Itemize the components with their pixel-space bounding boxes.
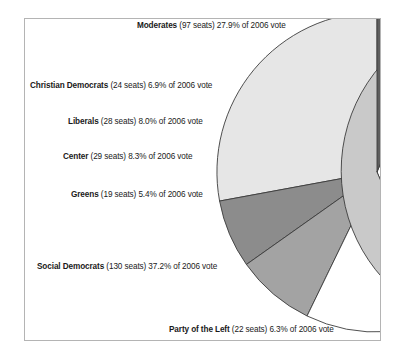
pie-slice-party-of-the-left[interactable] (377, 18, 381, 172)
pie-label-greens-party: Greens (71, 190, 99, 199)
pie-label-liberals-party: Liberals (68, 117, 99, 126)
pie-label-christian-democrats-percent: 6.9% of 2006 vote (148, 81, 212, 90)
pie-label-center: Center (29 seats) 8.3% of 2006 vote (63, 152, 192, 161)
pie-label-social-democrats-percent: 37.2% of 2006 vote (148, 262, 217, 271)
pie-label-liberals-seats: (28 seats) (101, 117, 136, 126)
pie-label-liberals-percent: 8.0% of 2006 vote (138, 117, 202, 126)
pie-label-party-of-the-left-seats: (22 seats) (232, 325, 267, 334)
pie-label-social-democrats: Social Democrats (130 seats) 37.2% of 20… (37, 262, 217, 271)
pie-label-moderates: Moderates (97 seats) 27.9% of 2006 vote (137, 21, 286, 30)
pie-chart-graphic (24, 18, 381, 341)
pie-label-party-of-the-left-percent: 6.3% of 2006 vote (269, 325, 333, 334)
pie-label-center-seats: (29 seats) (91, 152, 126, 161)
chart-plot-frame (24, 18, 381, 341)
pie-label-christian-democrats: Christian Democrats (24 seats) 6.9% of 2… (30, 81, 212, 90)
pie-label-social-democrats-seats: (130 seats) (106, 262, 146, 271)
pie-label-christian-democrats-party: Christian Democrats (30, 81, 108, 90)
pie-slices (217, 18, 381, 332)
pie-label-moderates-party: Moderates (137, 21, 177, 30)
pie-label-greens-percent: 5.4% of 2006 vote (138, 190, 202, 199)
pie-label-center-percent: 8.3% of 2006 vote (128, 152, 192, 161)
pie-chart-figure: Moderates (97 seats) 27.9% of 2006 vote … (0, 0, 404, 361)
pie-label-moderates-percent: 27.9% of 2006 vote (217, 21, 286, 30)
pie-label-liberals: Liberals (28 seats) 8.0% of 2006 vote (68, 117, 203, 126)
pie-label-social-democrats-party: Social Democrats (37, 262, 104, 271)
pie-label-greens: Greens (19 seats) 5.4% of 2006 vote (71, 190, 203, 199)
pie-label-moderates-seats: (97 seats) (179, 21, 214, 30)
pie-label-party-of-the-left-party: Party of the Left (169, 325, 230, 334)
pie-label-greens-seats: (19 seats) (101, 190, 136, 199)
pie-label-christian-democrats-seats: (24 seats) (110, 81, 145, 90)
pie-label-party-of-the-left: Party of the Left (22 seats) 6.3% of 200… (169, 325, 334, 334)
pie-label-center-party: Center (63, 152, 88, 161)
